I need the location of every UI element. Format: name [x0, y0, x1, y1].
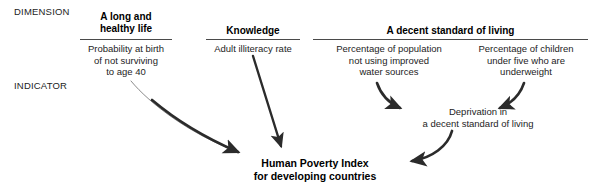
dimension-knowledge-rule — [206, 39, 300, 40]
row-label-indicator: INDICATOR — [14, 80, 67, 91]
arrow-water-to-deprivation — [377, 83, 400, 108]
indicator-underweight: Percentage of children under five who ar… — [463, 43, 589, 78]
indicator-survival: Probability at birth of not surviving to… — [72, 43, 180, 78]
dimension-health-heading: A long and healthy life — [80, 11, 172, 34]
row-label-dimension: DIMENSION — [14, 6, 70, 17]
indicator-literacy: Adult illiteracy rate — [200, 43, 306, 55]
arrow-literacy-to-hpi — [253, 56, 281, 146]
indicator-water: Percentage of population not using impro… — [319, 43, 459, 78]
node-human-poverty-index: Human Poverty Index for developing count… — [225, 157, 405, 182]
arrow-deprivation-to-hpi — [412, 131, 452, 161]
diagram-canvas: DIMENSION INDICATOR A long and healthy l… — [0, 0, 590, 193]
node-deprivation: Deprivation in a decent standard of livi… — [388, 106, 568, 129]
arrow-survival-to-hpi — [131, 81, 238, 152]
dimension-living-heading: A decent standard of living — [313, 25, 588, 37]
dimension-health-rule — [80, 39, 172, 40]
dimension-knowledge-heading: Knowledge — [206, 25, 300, 37]
arrow-underweight-to-deprivation — [500, 83, 524, 108]
dimension-living-rule — [313, 39, 588, 40]
